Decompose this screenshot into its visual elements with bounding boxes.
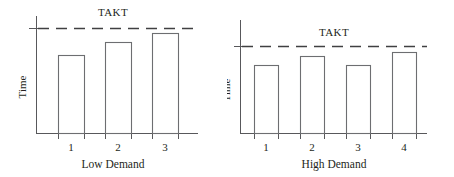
y-axis-label-low: Time: [16, 75, 28, 98]
x-tick-label-high-4: 4: [401, 141, 407, 153]
x-tick-label-low-2: 2: [115, 141, 121, 153]
bar-high-2: [301, 57, 325, 134]
takt-label-high: TAKT: [319, 26, 349, 38]
bar-high-4: [393, 53, 417, 134]
takt-label-low: TAKT: [98, 6, 128, 18]
bar-low-1: [59, 56, 85, 134]
bar-high-1: [255, 66, 279, 134]
low-demand-plot: TAKT 1 2 3 Time Low Demand: [0, 0, 227, 177]
x-axis-label-high: High Demand: [302, 158, 367, 171]
x-tick-label-high-3: 3: [355, 141, 361, 153]
chart-panel-low-demand: TAKT 1 2 3 Time Low Demand: [0, 0, 227, 177]
bar-low-3: [153, 34, 179, 134]
x-axis-label-low: Low Demand: [82, 158, 145, 170]
x-tick-label-high-2: 2: [309, 141, 315, 153]
x-tick-label-low-1: 1: [68, 141, 74, 153]
high-demand-plot: TAKT 1 2 3 4 Time High Demand: [227, 0, 454, 177]
y-axis-label-high: Time: [227, 78, 232, 101]
x-tick-label-low-3: 3: [162, 141, 168, 153]
two-panel-bar-chart-figure: TAKT 1 2 3 Time Low Demand: [0, 0, 454, 177]
chart-panel-high-demand: TAKT 1 2 3 4 Time High Demand: [227, 0, 454, 177]
bar-high-3: [347, 66, 371, 134]
bar-low-2: [106, 43, 132, 134]
x-tick-label-high-1: 1: [263, 141, 269, 153]
